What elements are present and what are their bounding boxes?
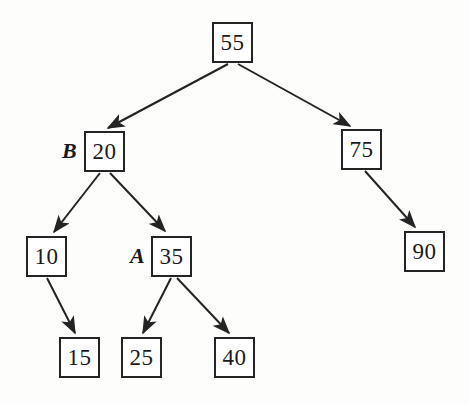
tree-node-20: 20 (84, 131, 125, 172)
tree-edge-n20-to-n10 (54, 173, 100, 232)
tree-node-40: 40 (214, 337, 255, 378)
tree-edge-n35-to-n25 (143, 278, 171, 333)
tree-node-55: 55 (212, 22, 253, 63)
binary-tree-figure: 55B207510A3590152540 (0, 0, 469, 404)
tree-edge-n75-to-n90 (365, 171, 415, 227)
tree-edges (47, 64, 415, 333)
tree-edge-n55-to-n20 (108, 64, 228, 128)
tree-edge-n35-to-n40 (177, 278, 229, 333)
tree-node-15: 15 (59, 337, 100, 378)
node-side-label-B: B (62, 138, 77, 164)
tree-edge-n20-to-n35 (110, 173, 165, 231)
node-side-label-A: A (130, 243, 145, 269)
tree-node-10: 10 (26, 236, 67, 277)
tree-edge-n55-to-n75 (238, 64, 350, 126)
tree-node-25: 25 (121, 337, 162, 378)
tree-node-75: 75 (341, 129, 382, 170)
tree-node-90: 90 (404, 231, 445, 272)
tree-edge-n10-to-n15 (47, 278, 75, 333)
tree-node-35: 35 (151, 236, 192, 277)
